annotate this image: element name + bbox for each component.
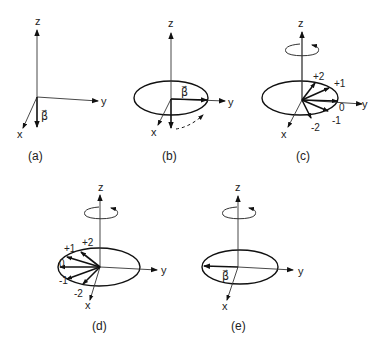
z-axis-label: z bbox=[35, 15, 41, 27]
state-label-plus1: +1 bbox=[334, 78, 346, 89]
x-axis-label: x bbox=[281, 128, 287, 140]
z-axis-label: z bbox=[235, 181, 241, 193]
y-axis bbox=[100, 267, 157, 270]
beta-vector bbox=[171, 99, 207, 100]
state-label-minus2: -2 bbox=[311, 122, 320, 133]
spin-orientation-diagram: z y x β⃗ (a) z y x β⃗ (b) z y x bbox=[0, 0, 379, 345]
z-axis-label: z bbox=[98, 181, 104, 193]
state-label-minus1: -1 bbox=[332, 115, 341, 126]
x-axis bbox=[158, 99, 171, 125]
z-axis-label: z bbox=[168, 17, 174, 29]
y-axis-label: y bbox=[362, 98, 368, 110]
y-axis bbox=[238, 267, 293, 270]
beta-label: β⃗ bbox=[41, 109, 48, 122]
x-axis-label: x bbox=[222, 300, 228, 312]
state-label-plus1: +1 bbox=[64, 243, 76, 254]
x-axis bbox=[288, 100, 302, 127]
x-axis bbox=[23, 97, 37, 128]
z-axis-label: z bbox=[298, 17, 304, 29]
state-label-minus1: -1 bbox=[59, 275, 68, 286]
beta-label: β⃗ bbox=[181, 85, 188, 98]
panel-c: z y x +2 +1 0 -1 -2 (c) bbox=[262, 17, 368, 163]
y-axis-label: y bbox=[298, 265, 304, 277]
x-axis-label: x bbox=[85, 299, 91, 311]
state-label-plus2: +2 bbox=[82, 237, 94, 248]
y-axis-label: y bbox=[228, 96, 234, 108]
state-label-plus2: +2 bbox=[313, 71, 325, 82]
y-axis bbox=[37, 97, 98, 101]
state-vector-plus1 bbox=[67, 257, 100, 267]
state-label-zero: 0 bbox=[59, 258, 65, 269]
x-axis-label: x bbox=[17, 128, 23, 140]
state-label-minus2: -2 bbox=[74, 288, 83, 299]
y-axis-label: y bbox=[101, 95, 107, 107]
panel-b: z y x β⃗ (b) bbox=[134, 17, 234, 163]
panel-caption: (a) bbox=[28, 149, 43, 163]
panel-e: z y x β⃗ (e) bbox=[202, 181, 304, 333]
beta-vector bbox=[204, 266, 238, 267]
rotation-arrow-icon bbox=[85, 207, 118, 219]
rotation-arrow-icon bbox=[223, 207, 256, 219]
panel-caption: (e) bbox=[231, 319, 246, 333]
rotation-path-dashed bbox=[176, 115, 203, 129]
panel-d: z y x +2 +1 0 -1 -2 (d) bbox=[58, 181, 167, 333]
y-axis-label: y bbox=[161, 264, 167, 276]
panel-caption: (d) bbox=[92, 319, 107, 333]
panel-a: z y x β⃗ (a) bbox=[17, 15, 107, 163]
x-axis-label: x bbox=[151, 126, 157, 138]
beta-label: β⃗ bbox=[222, 269, 229, 282]
state-label-zero: 0 bbox=[339, 102, 345, 113]
panel-caption: (b) bbox=[162, 149, 177, 163]
state-vector-zero bbox=[302, 100, 337, 101]
panel-caption: (c) bbox=[296, 149, 310, 163]
